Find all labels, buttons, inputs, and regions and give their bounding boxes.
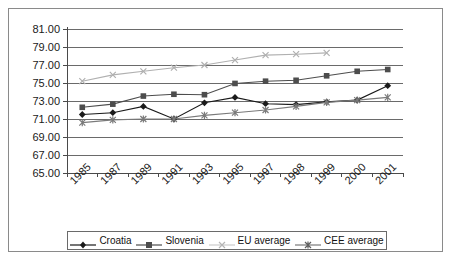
y-axis-tick-label: 73.00 — [32, 95, 60, 107]
x-axis-tick-label: 1995 — [220, 161, 246, 187]
data-point-marker — [293, 78, 299, 84]
data-point-marker — [232, 81, 238, 87]
y-axis-tick-label: 79.00 — [32, 41, 60, 53]
data-point-marker — [141, 93, 147, 99]
legend-item-eu-average: EU average — [209, 235, 291, 246]
data-point-marker — [171, 91, 177, 97]
y-axis-tick-label: 69.00 — [32, 131, 60, 143]
legend-label-eu-average: EU average — [238, 235, 291, 246]
data-point-marker — [110, 101, 116, 107]
data-point-marker — [324, 73, 330, 79]
legend-marker-star-icon — [295, 236, 321, 246]
data-point-marker — [354, 69, 360, 75]
chart-legend: Croatia Slovenia EU average CEE average — [67, 231, 387, 250]
x-axis-tick-label: 2000 — [342, 161, 368, 187]
y-axis-tick-label: 67.00 — [32, 149, 60, 161]
series-croatia — [79, 82, 391, 122]
chart-frame: 81.0079.0077.0075.0073.0071.0069.0067.00… — [8, 8, 443, 252]
data-point-marker — [202, 92, 208, 98]
y-axis-tick-label: 77.00 — [32, 59, 60, 71]
x-axis-tick-label: 2001 — [373, 161, 399, 187]
data-point-marker — [79, 105, 85, 111]
y-axis-tick-label: 65.00 — [32, 167, 60, 179]
series-eu-average — [79, 50, 329, 84]
x-axis-tick-label: 1998 — [281, 161, 307, 187]
legend-item-cee-average: CEE average — [295, 235, 383, 246]
legend-marker-cross-icon — [209, 236, 235, 246]
legend-marker-square-icon — [136, 236, 162, 246]
line-chart-plot: 81.0079.0077.0075.0073.0071.0069.0067.00… — [9, 9, 444, 253]
x-axis-tick-label: 1997 — [250, 161, 276, 187]
data-point-marker — [385, 67, 391, 73]
x-axis-tick-label: 1991 — [159, 161, 185, 187]
x-axis-tick-label: 1989 — [128, 161, 154, 187]
y-axis-tick-label: 81.00 — [32, 23, 60, 35]
data-point-marker — [140, 103, 147, 110]
legend-marker-diamond-icon — [70, 236, 96, 246]
legend-item-croatia: Croatia — [70, 235, 131, 246]
legend-item-slovenia: Slovenia — [136, 235, 203, 246]
data-point-marker — [263, 78, 269, 84]
x-axis-tick-label: 1999 — [312, 161, 338, 187]
x-axis-tick-label: 1987 — [98, 161, 124, 187]
legend-label-slovenia: Slovenia — [165, 235, 203, 246]
x-axis-tick-label: 1985 — [67, 161, 93, 187]
data-point-marker — [79, 111, 86, 118]
data-point-marker — [201, 99, 208, 106]
legend-label-cee-average: CEE average — [324, 235, 383, 246]
series-line — [82, 53, 326, 81]
x-axis-tick-label: 1993 — [189, 161, 215, 187]
legend-label-croatia: Croatia — [99, 235, 131, 246]
data-point-marker — [232, 94, 239, 101]
y-axis-tick-label: 75.00 — [32, 77, 60, 89]
data-point-marker — [109, 109, 116, 116]
y-axis-tick-label: 71.00 — [32, 113, 60, 125]
